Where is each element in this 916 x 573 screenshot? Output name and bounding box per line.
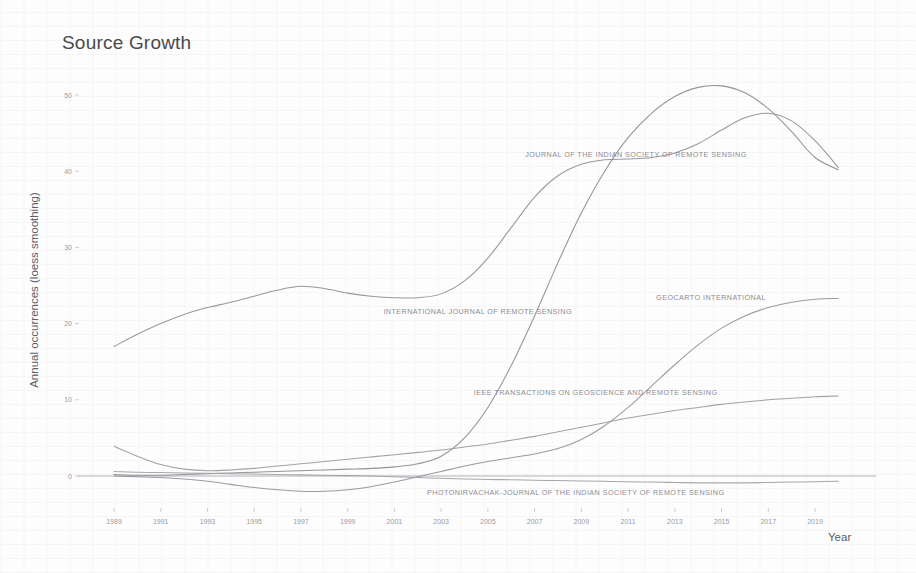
- x-tick-label: 2005: [480, 518, 496, 525]
- series-line: [114, 471, 838, 482]
- series-line: [114, 85, 838, 475]
- y-axis-ticks: 01020304050: [64, 92, 79, 480]
- series-label: JOURNAL OF THE INDIAN SOCIETY OF REMOTE …: [525, 150, 747, 159]
- y-tick-label: 50: [64, 92, 72, 99]
- x-tick-label: 1997: [293, 518, 309, 525]
- x-tick-label: 2001: [387, 518, 403, 525]
- series-label: IEEE TRANSACTIONS ON GEOSCIENCE AND REMO…: [474, 388, 718, 397]
- y-axis-title: Annual occurrences (loess smoothing): [28, 192, 40, 388]
- x-axis-ticks: 1989199119931995199719992001200320052007…: [106, 508, 823, 525]
- series-inline-labels: INTERNATIONAL JOURNAL OF REMOTE SENSINGJ…: [383, 150, 765, 497]
- y-tick-label: 10: [64, 396, 72, 403]
- x-tick-label: 1989: [106, 518, 122, 525]
- series-curves: [114, 85, 838, 491]
- y-tick-label: 20: [64, 320, 72, 327]
- x-tick-label: 1993: [200, 518, 216, 525]
- source-growth-line-chart: 01020304050 1989199119931995199719992001…: [0, 0, 916, 573]
- x-tick-label: 2009: [574, 518, 590, 525]
- chart-canvas: 01020304050 1989199119931995199719992001…: [0, 0, 916, 573]
- x-tick-label: 1995: [246, 518, 262, 525]
- y-tick-label: 0: [68, 473, 72, 480]
- x-tick-label: 2015: [714, 518, 730, 525]
- x-axis-title: Year: [828, 531, 851, 543]
- series-label: INTERNATIONAL JOURNAL OF REMOTE SENSING: [383, 307, 572, 316]
- x-tick-label: 1999: [340, 518, 356, 525]
- x-tick-label: 2013: [667, 518, 683, 525]
- x-tick-label: 2011: [621, 518, 636, 525]
- y-tick-label: 40: [64, 168, 72, 175]
- series-label: GEOCARTO INTERNATIONAL: [656, 293, 766, 302]
- series-label: PHOTONIRVACHAK-JOURNAL OF THE INDIAN SOC…: [427, 488, 724, 497]
- chart-page: Source Growth 01020304050 19891991199319…: [0, 0, 916, 573]
- x-tick-label: 1991: [153, 518, 169, 525]
- x-tick-label: 2007: [527, 518, 543, 525]
- series-line: [114, 396, 838, 471]
- x-tick-label: 2019: [807, 518, 823, 525]
- y-tick-label: 30: [64, 244, 72, 251]
- x-tick-label: 2017: [760, 518, 776, 525]
- x-tick-label: 2003: [433, 518, 449, 525]
